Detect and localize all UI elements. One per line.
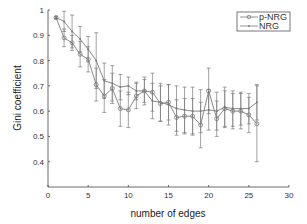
plot-area [54,11,259,161]
line-chart: 0510152025300.40.50.60.70.80.91 number o… [0,0,307,224]
series-p-nrg [54,16,259,162]
data-point [111,82,113,84]
data-point [71,30,73,32]
y-tick-label: 0.9 [33,31,45,40]
data-point [159,101,161,103]
x-tick-label: 10 [124,191,133,200]
data-point [103,80,105,82]
data-point [151,100,153,102]
data-point [135,90,137,92]
data-point [248,108,250,110]
x-tick-label: 15 [164,191,173,200]
data-point [192,110,194,112]
data-point [143,90,145,92]
x-tick-label: 0 [46,191,51,200]
data-point [176,108,178,110]
x-tick-label: 25 [244,191,253,200]
data-point [63,20,65,22]
y-axis-label: Gini coefficient [12,65,23,131]
data-point [119,86,121,88]
y-tick-label: 0.6 [33,107,45,116]
x-tick-label: 5 [86,191,91,200]
data-point [168,104,170,106]
y-tick-label: 0.8 [33,57,45,66]
data-point [184,109,186,111]
y-tick-label: 0.7 [33,82,45,91]
y-tick-label: 1 [40,6,45,15]
data-point [87,48,89,50]
y-tick-label: 0.4 [33,158,45,167]
legend: p-NRG NRG [237,12,290,31]
legend-marker-nrg [248,25,250,27]
legend-label-nrg: NRG [259,21,279,31]
data-point [224,106,226,108]
x-axis-label: number of edges [130,208,205,219]
data-point [240,108,242,110]
data-point [95,60,97,62]
data-point [55,17,57,19]
x-tick-label: 30 [285,191,294,200]
data-point [208,109,210,111]
series-line [56,18,257,112]
data-point [200,110,202,112]
x-tick-label: 20 [204,191,213,200]
y-tick-label: 0.5 [33,132,45,141]
data-point [79,38,81,40]
data-point [216,110,218,112]
data-point [232,108,234,110]
series-nrg [54,11,259,135]
data-point [127,85,129,87]
data-point [256,101,258,103]
